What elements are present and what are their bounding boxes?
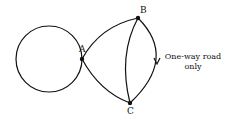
edge-b-c-inner (126, 18, 139, 103)
edge-a-c (82, 59, 130, 103)
node-label-b: B (140, 6, 147, 15)
one-way-annotation: One-way road only (163, 52, 223, 73)
node-b (136, 16, 140, 20)
node-label-a: A (79, 45, 86, 54)
loop-edge-a (16, 26, 82, 92)
annotation-line-2: only (163, 62, 223, 72)
annotation-line-1: One-way road (163, 52, 223, 62)
node-c (128, 101, 132, 105)
node-label-c: C (127, 107, 134, 116)
node-a (80, 57, 84, 61)
edge-b-c-oneway (130, 18, 156, 103)
